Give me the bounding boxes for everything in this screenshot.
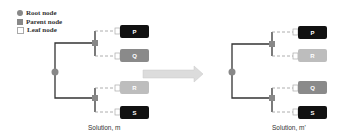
root-node xyxy=(52,69,59,76)
leaf-box: Q xyxy=(120,49,149,62)
leaf-box: P xyxy=(298,26,327,39)
leaf-box: R xyxy=(120,81,149,94)
leaf-box: S xyxy=(120,106,149,119)
root-node xyxy=(229,69,236,76)
leaf-box: S xyxy=(298,106,327,119)
right-caption: Solution, m' xyxy=(272,124,306,131)
arrow-right-icon xyxy=(143,66,203,82)
parent-node xyxy=(269,95,275,101)
leaf-box: P xyxy=(120,25,149,38)
parent-node xyxy=(92,95,98,101)
tree-diagram xyxy=(0,0,346,138)
leaf-box: Q xyxy=(298,81,327,94)
left-caption: Solution, m xyxy=(88,124,121,131)
parent-node xyxy=(269,41,275,47)
left-tree-edges xyxy=(55,31,95,112)
parent-node xyxy=(92,40,98,46)
leaf-box: R xyxy=(298,49,327,62)
